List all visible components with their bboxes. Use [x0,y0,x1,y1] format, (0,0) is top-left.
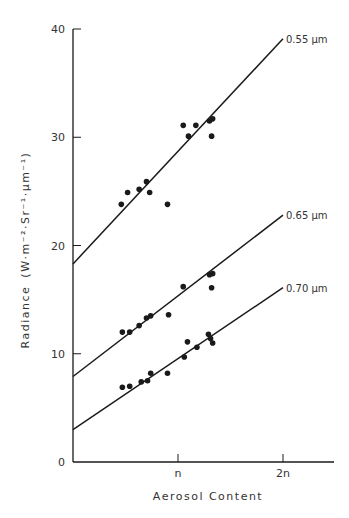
data-point [144,179,150,185]
x-tick-label: 2n [276,467,290,480]
data-point [120,385,126,391]
data-point [136,323,142,329]
x-tick-label: n [175,467,182,480]
data-point [185,339,191,345]
data-point [145,378,151,384]
data-point [165,202,171,208]
data-point [209,133,215,139]
data-point [186,133,192,139]
data-point [180,123,186,129]
fit-line-1 [73,215,283,376]
y-ticks: 010203040 [51,23,81,469]
y-tick-label: 10 [51,348,65,361]
data-point [166,312,172,318]
data-point [182,354,188,360]
data-point [165,370,171,376]
data-point [136,186,142,192]
x-axis-label: Aerosol Content [153,490,263,503]
y-tick-label: 40 [51,23,65,36]
data-point [125,190,131,196]
series-labels: 0.55 μm0.65 μm0.70 μm [286,34,328,294]
data-point [180,284,186,290]
data-point [193,123,199,129]
fit-line-0 [73,39,283,264]
data-point [210,271,216,277]
x-ticks: n2n [175,454,290,480]
radiance-vs-aerosol-chart: 010203040 n2n 0.55 μm0.65 μm0.70 μm Aero… [0,0,349,518]
data-point [148,370,154,376]
series-label: 0.65 μm [286,210,328,221]
series-label: 0.55 μm [286,34,328,45]
data-point [210,116,216,122]
data-point [127,329,133,335]
y-axis-label-text: Radiance(W·m⁻²·Sr⁻¹·μm⁻¹) [19,152,32,349]
y-tick-label: 20 [51,240,65,253]
y-tick-label: 30 [51,131,65,144]
data-point [148,313,154,319]
y-axis-label: Radiance(W·m⁻²·Sr⁻¹·μm⁻¹) [19,152,32,349]
axes [73,29,334,462]
data-point [120,329,126,335]
data-point [127,383,133,389]
fit-lines [73,39,283,430]
fit-line-2 [73,288,283,430]
data-point [210,340,216,346]
data-points [119,116,216,390]
data-point [138,379,144,385]
data-point [209,285,215,291]
data-point [119,202,125,208]
y-tick-label: 0 [58,456,65,469]
series-label: 0.70 μm [286,283,328,294]
data-point [194,344,200,350]
data-point [147,190,153,196]
